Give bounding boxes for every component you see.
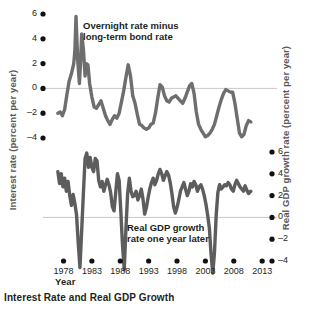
- x-tick-dot: [146, 258, 151, 263]
- y-left-tick-label: –2: [15, 107, 37, 117]
- y-left-tick-label: 6: [15, 8, 37, 18]
- x-tick-dot: [174, 258, 179, 263]
- y-right-tick-label: –4: [278, 255, 300, 265]
- y-axis-right-title: Real GDP growth rate (percent per year): [280, 38, 291, 238]
- x-tick-label: 1978: [49, 266, 79, 276]
- series-line-gdp-growth: [58, 153, 251, 273]
- series-label-gdp-line1: Real GDP growth: [127, 222, 209, 233]
- y-axis-left-title: Interest rate (percent per year): [7, 40, 18, 240]
- figure-caption: Interest Rate and Real GDP Growth: [4, 292, 174, 303]
- chart-figure: 6420–2–4 6420–2–4 1978198319881993199820…: [0, 0, 311, 310]
- zero-gridlines: [43, 88, 277, 217]
- x-tick-label: 1983: [77, 266, 107, 276]
- y-right-tick-dot: [269, 258, 274, 263]
- y-right-tick-dot: [269, 215, 274, 220]
- y-right-tick-dot: [269, 237, 274, 242]
- x-axis-title: Year: [55, 276, 75, 287]
- x-tick-label: 1993: [134, 266, 164, 276]
- x-tick-label: 1988: [105, 266, 135, 276]
- x-tick-dot: [61, 258, 66, 263]
- x-tick-label: 2013: [247, 266, 277, 276]
- y-left-tick-dot: [40, 111, 45, 116]
- y-left-tick-label: –4: [15, 132, 37, 142]
- y-right-tick-dot: [269, 149, 274, 154]
- y-left-tick-label: 4: [15, 33, 37, 43]
- y-left-tick-dot: [40, 36, 45, 41]
- y-right-tick-dot: [269, 193, 274, 198]
- x-tick-dot: [231, 258, 236, 263]
- y-left-tick-dot: [40, 11, 45, 16]
- x-tick-dot: [89, 258, 94, 263]
- y-right-tick-dot: [269, 171, 274, 176]
- series-label-gdp-growth: Real GDP growth rate one year later: [127, 222, 209, 244]
- x-tick-dot: [260, 258, 265, 263]
- x-tick-label: 2008: [219, 266, 249, 276]
- x-tick-label: 2003: [190, 266, 220, 276]
- x-tick-dot: [203, 258, 208, 263]
- y-left-tick-dot: [40, 86, 45, 91]
- x-tick-label: 1998: [162, 266, 192, 276]
- series-label-gdp-line2: rate one year later: [127, 233, 209, 244]
- series-label-overnight-line2: long-term bond rate: [83, 31, 179, 42]
- y-left-tick-label: 2: [15, 58, 37, 68]
- y-left-tick-label: 0: [15, 82, 37, 92]
- y-left-tick-dot: [40, 61, 45, 66]
- x-tick-dot: [118, 258, 123, 263]
- series-label-overnight-line1: Overnight rate minus: [83, 20, 179, 31]
- y-left-tick-dot: [40, 135, 45, 140]
- series-label-overnight-rate: Overnight rate minus long-term bond rate: [83, 20, 179, 42]
